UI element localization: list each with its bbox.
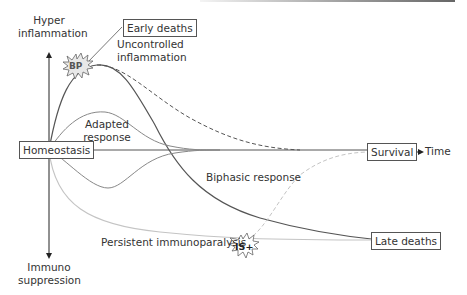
immune-response-diagram: Hyper inflammation Immuno suppression Ti… — [0, 0, 467, 295]
y-axis-bottom-label: Immuno suppression — [18, 261, 80, 287]
adapted-line1: Adapted — [82, 118, 132, 131]
adapted-line2: response — [82, 131, 132, 144]
immunoparalysis-recovery-dashed — [248, 152, 367, 240]
biphasic-curve — [49, 65, 380, 240]
biphasic-response-label: Biphasic response — [206, 171, 301, 184]
uncontrolled-line1: Uncontrolled — [117, 38, 187, 51]
y-bottom-line2: suppression — [18, 274, 80, 287]
late-deaths-box: Late deaths — [371, 232, 441, 250]
uncontrolled-line2: inflammation — [117, 51, 187, 64]
survival-box: Survival — [367, 143, 417, 161]
y-axis-top-label: Hyper inflammation — [18, 14, 80, 40]
bp-label: BP — [69, 60, 82, 73]
uncontrolled-inflammation-label: Uncontrolled inflammation — [117, 38, 187, 64]
is-plus-label: IS+ — [235, 240, 253, 253]
adapted-response-label: Adapted response — [82, 118, 132, 144]
y-top-line2: inflammation — [18, 27, 80, 40]
immunoparalysis-curve — [49, 150, 380, 240]
x-axis-label: Time — [425, 145, 451, 158]
early-deaths-box: Early deaths — [123, 19, 197, 37]
y-bottom-line1: Immuno — [18, 261, 80, 274]
persistent-immunoparalysis-label: Persistent immunoparalysis — [101, 236, 246, 249]
y-top-line1: Hyper — [18, 14, 80, 27]
